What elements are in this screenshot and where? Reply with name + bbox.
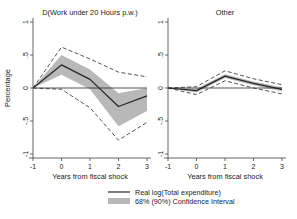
y-tick-label: 1 [157, 20, 164, 24]
legend-band-swatch [108, 198, 130, 204]
y-axis-label: Percentage [3, 69, 12, 107]
y-tick-label: .5 [157, 52, 164, 58]
x-tick-label: 3 [145, 163, 149, 170]
x-tick-label: -1 [30, 163, 36, 170]
legend-line-label: Real log(Total expenditure) [135, 188, 221, 197]
y-tick-label: -.5 [157, 117, 164, 125]
x-axis-label: Years from fiscal shock [52, 172, 128, 181]
y-tick-label: -.5 [22, 117, 29, 125]
panel-title-1: Other [216, 8, 235, 17]
x-tick-label: -1 [165, 163, 171, 170]
figure-container: D(Work under 20 Hours p.w.)1.50-.5-1-101… [0, 0, 297, 219]
panel-title-0: D(Work under 20 Hours p.w.) [42, 8, 138, 17]
x-tick-label: 2 [117, 163, 121, 170]
confidence-band-68 [33, 55, 147, 126]
y-tick-label: 0 [22, 86, 29, 90]
x-tick-label: 1 [88, 163, 92, 170]
panel-right [164, 18, 286, 161]
x-tick-label: 1 [223, 163, 227, 170]
y-tick-label: -1 [22, 151, 29, 157]
impulse-response-chart: D(Work under 20 Hours p.w.)1.50-.5-1-101… [0, 0, 297, 219]
legend-band-label: 68% (90%) Confidence Interval [135, 197, 235, 206]
x-tick-label: 0 [60, 163, 64, 170]
y-tick-label: .5 [22, 52, 29, 58]
x-tick-label: 0 [195, 163, 199, 170]
panel-left [29, 18, 151, 161]
y-tick-label: -1 [157, 151, 164, 157]
y-tick-label: 1 [22, 20, 29, 24]
y-tick-label: 0 [157, 86, 164, 90]
x-axis-label: Years from fiscal shock [187, 172, 263, 181]
x-tick-label: 2 [252, 163, 256, 170]
x-tick-label: 3 [280, 163, 284, 170]
